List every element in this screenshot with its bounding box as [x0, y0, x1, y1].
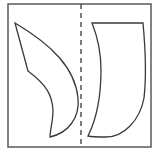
figure-canvas [0, 0, 153, 155]
right-curved-shape [88, 23, 145, 137]
symmetry-figure: Two curved shapes inside a square frame … [0, 0, 153, 155]
left-curved-shape [15, 23, 78, 137]
